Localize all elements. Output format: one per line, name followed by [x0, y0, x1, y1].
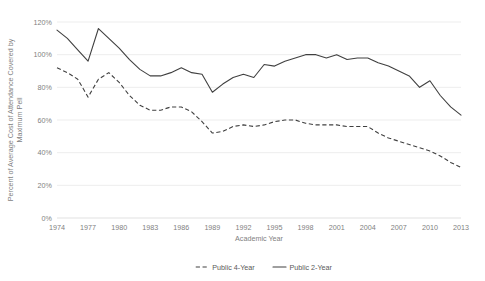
x-axis-title: Academic Year: [235, 234, 284, 243]
y-axis-tick-label: 100%: [34, 50, 53, 59]
x-axis-tick-label: 1986: [173, 223, 189, 232]
chart-container: 120%100%80%60%40%20%0%197419771980198319…: [0, 0, 485, 281]
x-axis-tick-label: 2004: [360, 223, 376, 232]
y-axis-tick-label: 120%: [34, 18, 53, 27]
series-line-public-2-year: [57, 29, 461, 116]
x-axis-tick-label: 2010: [422, 223, 438, 232]
y-axis-tick-label: 20%: [38, 181, 53, 190]
x-axis-tick-label: 2013: [453, 223, 469, 232]
x-axis-tick-label: 1998: [298, 223, 314, 232]
x-axis-tick-label: 1974: [49, 223, 65, 232]
line-chart: 120%100%80%60%40%20%0%197419771980198319…: [0, 0, 485, 281]
y-axis-tick-label: 40%: [38, 148, 53, 157]
x-axis-tick-label: 1995: [267, 223, 283, 232]
x-axis-tick-label: 1992: [235, 223, 251, 232]
x-axis-tick-label: 1983: [142, 223, 158, 232]
y-axis-tick-label: 0%: [42, 214, 53, 223]
y-axis-tick-label: 60%: [38, 116, 53, 125]
legend-item-public-2-year[interactable]: Public 2-Year: [273, 263, 333, 272]
legend-item-public-4-year[interactable]: Public 4-Year: [196, 263, 256, 272]
x-axis-tick-label: 1989: [204, 223, 220, 232]
y-axis-title: Percent of Average Cost of Attendance Co…: [6, 38, 23, 201]
x-axis-tick-label: 1980: [111, 223, 127, 232]
x-axis-tick-label: 2007: [391, 223, 407, 232]
x-axis-tick-label: 1977: [80, 223, 96, 232]
x-axis-tick-label: 2001: [329, 223, 345, 232]
y-axis-tick-label: 80%: [38, 83, 53, 92]
svg-text:Percent of Average Cost of Att: Percent of Average Cost of Attendance Co…: [6, 38, 23, 201]
legend-label: Public 2-Year: [290, 263, 333, 272]
legend-label: Public 4-Year: [212, 263, 255, 272]
